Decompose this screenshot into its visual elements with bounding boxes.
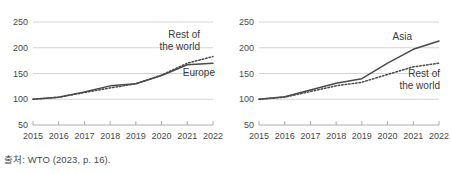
xtick-label: 2017 [300, 131, 320, 141]
xtick-label: 2020 [377, 131, 397, 141]
xtick-label: 2016 [49, 131, 69, 141]
ytick-label: 250 [238, 17, 253, 27]
xtick-label: 2022 [428, 131, 448, 141]
chart-panel-asia: 50100150200250 2015201620172018201920202… [226, 0, 451, 148]
series-label-rest-of-the-world: the world [159, 41, 200, 52]
source-note: 출처: WTO (2023, p. 16). [4, 152, 111, 166]
ytick-label: 100 [238, 94, 253, 104]
series-label-rest-of-the-world: the world [399, 80, 440, 91]
line-chart-asia: 50100150200250 2015201620172018201920202… [226, 0, 451, 148]
series-label-asia: Asia [392, 31, 412, 42]
ytick-label: 100 [13, 94, 28, 104]
ytick-label: 50 [243, 120, 253, 130]
series-labels-asia: AsiaRest ofthe world [392, 31, 440, 91]
ytick-label: 150 [13, 69, 28, 79]
series-label-rest-of-the-world: Rest of [168, 29, 200, 40]
xtick-label: 2022 [203, 131, 223, 141]
xtick-label: 2019 [351, 131, 371, 141]
series-labels-europe: Rest ofthe worldEurope [159, 29, 215, 78]
xtick-labels-asia: 20152016201720182019202020212022 [248, 131, 448, 141]
xtick-label: 2016 [274, 131, 294, 141]
xtick-label: 2015 [23, 131, 43, 141]
series-label-rest-of-the-world: Rest of [408, 68, 440, 79]
chart-panel-europe: 50100150200250 2015201620172018201920202… [0, 0, 226, 148]
ytick-label: 200 [13, 43, 28, 53]
chart-panels: 50100150200250 2015201620172018201920202… [0, 0, 451, 148]
ytick-label: 200 [238, 43, 253, 53]
xtick-labels-europe: 20152016201720182019202020212022 [23, 131, 223, 141]
xtick-label: 2017 [74, 131, 94, 141]
xtick-label: 2015 [248, 131, 268, 141]
xtick-label: 2021 [403, 131, 423, 141]
ytick-label: 250 [13, 17, 28, 27]
xtick-label: 2020 [152, 131, 172, 141]
xaxis-europe [33, 121, 213, 125]
ytick-label: 50 [18, 120, 28, 130]
xtick-label: 2021 [177, 131, 197, 141]
figure-wto-trade-index: 50100150200250 2015201620172018201920202… [0, 0, 451, 174]
xtick-label: 2018 [326, 131, 346, 141]
ytick-labels-europe: 50100150200250 [13, 17, 28, 130]
xaxis-asia [259, 121, 439, 125]
xtick-label: 2019 [126, 131, 146, 141]
ytick-label: 150 [238, 69, 253, 79]
line-chart-europe: 50100150200250 2015201620172018201920202… [0, 0, 226, 148]
ytick-labels-asia: 50100150200250 [238, 17, 253, 130]
xtick-label: 2018 [100, 131, 120, 141]
series-label-europe: Europe [183, 67, 216, 78]
